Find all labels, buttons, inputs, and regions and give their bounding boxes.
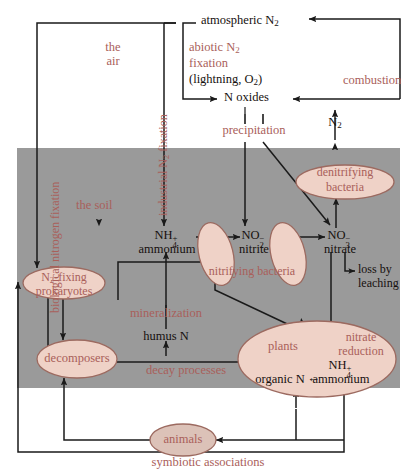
plants-label: plants bbox=[268, 340, 298, 354]
loss-by-leaching-label-line1: loss by bbox=[358, 263, 392, 276]
abiotic-fixation-line1: abiotic N2 bbox=[189, 41, 240, 56]
combustion-label: combustion bbox=[343, 74, 401, 88]
organic-n-label: organic N bbox=[255, 373, 304, 387]
n2-fixing-prokaryotes-label-line2: prokaryotes bbox=[36, 285, 93, 298]
industrial-n2-fixation-label: industrial N2 fixation bbox=[157, 114, 171, 216]
air-zone-label-line2: air bbox=[106, 55, 119, 69]
plants-ammonium-formula-label: NH+4 bbox=[329, 359, 354, 373]
nitrite-formula-label: NO−2 bbox=[242, 229, 267, 243]
loss-by-leaching-label-line2: leaching bbox=[358, 277, 399, 290]
soil-zone-label: the soil bbox=[76, 199, 112, 213]
nitrate-name-label: nitrate bbox=[324, 243, 356, 257]
air-zone-label-line1: the bbox=[105, 41, 120, 55]
nitrate-formula-label: NO−3 bbox=[328, 229, 353, 243]
precipitation-label: precipitation bbox=[222, 124, 285, 138]
denitrifying-bacteria-label-line2: bacteria bbox=[326, 181, 364, 194]
atmospheric-n2-label: atmospheric N2 bbox=[201, 14, 279, 29]
symbiotic-associations-label: symbiotic associations bbox=[152, 456, 265, 469]
decomposers-label: decomposers bbox=[44, 352, 109, 366]
animals-label: animals bbox=[164, 433, 203, 447]
ammonium-formula-label: NH+4 bbox=[155, 229, 180, 243]
plants-ammonium-name-label: ammonium bbox=[313, 373, 370, 387]
n2-combustion-label: N2 bbox=[328, 116, 342, 131]
abiotic-n2-subscript: 2 bbox=[235, 45, 240, 55]
denitrifying-bacteria-label-line1: denitrifying bbox=[317, 166, 374, 179]
atmospheric-n2-subscript: 2 bbox=[274, 18, 279, 28]
organic-n-arrow-icon: ← bbox=[307, 371, 320, 385]
humus-n-label: humus N bbox=[143, 330, 189, 344]
nitrate-reduction-label-line1: nitrate bbox=[346, 331, 377, 344]
abiotic-fixation-line3: (lightning, O2) bbox=[189, 73, 262, 88]
n-oxides-label: N oxides bbox=[224, 91, 269, 105]
ammonium-name-label: ammonium bbox=[139, 243, 196, 257]
nitrifying-bacteria-label: nitrifying bacteria bbox=[209, 265, 295, 278]
nitrate-reduction-label-line2: reduction bbox=[338, 345, 383, 358]
industrial-n2-subscript: 2 bbox=[161, 155, 171, 159]
mineralization-label: mineralization bbox=[130, 307, 202, 321]
nitrite-name-label: nitrite bbox=[239, 243, 269, 257]
abiotic-fixation-line2: fixation bbox=[189, 57, 228, 71]
decay-processes-label: decay processes bbox=[146, 364, 226, 378]
n2-combustion-subscript: 2 bbox=[337, 120, 342, 130]
nitrogen-cycle-diagram: atmospheric N2 the air abiotic N2 fixati… bbox=[0, 0, 417, 469]
